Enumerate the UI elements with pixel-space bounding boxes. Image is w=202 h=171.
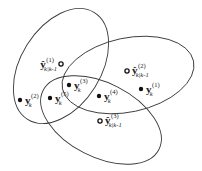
pred-3-marker-icon: [98, 119, 102, 123]
label-subscript: k: [150, 90, 153, 97]
measurement-points: y(1)ky(2)ky(3)ky(4)ky(5)k: [18, 77, 160, 108]
label-subscript: k: [108, 97, 111, 104]
label-subscript: k: [78, 86, 81, 93]
gate-ellipses: [0, 0, 201, 171]
meas-3-label: y(3)k: [74, 77, 88, 93]
meas-3-marker-icon: [67, 83, 71, 87]
meas-4-label: y(4)k: [104, 88, 118, 104]
label-superscript: (3): [111, 112, 119, 120]
meas-4-marker-icon: [97, 94, 101, 98]
label-subscript: k|k-1: [136, 71, 149, 78]
label-superscript: (1): [46, 56, 54, 64]
meas-1-label: y(1)k: [146, 81, 160, 97]
meas-2-label: y(2)k: [25, 92, 39, 108]
meas-5-marker-icon: [48, 96, 52, 100]
label-superscript: (2): [138, 62, 146, 70]
label-subscript: k|k-1: [44, 65, 57, 72]
label-subscript: k|k-1: [109, 121, 122, 128]
pred-2-label: ŷ(2)k|k-1: [132, 62, 149, 78]
pred-2-marker-icon: [125, 69, 129, 73]
label-superscript: (1): [152, 81, 160, 89]
pred-3-label: ŷ(3)k|k-1: [105, 112, 122, 128]
label-superscript: (4): [110, 88, 118, 96]
label-subscript: k: [29, 101, 32, 108]
meas-1-marker-icon: [139, 87, 143, 91]
label-superscript: (3): [80, 77, 88, 85]
pred-1-marker-icon: [59, 62, 63, 66]
gate-2-ellipse: [55, 25, 201, 125]
gate-3-ellipse: [26, 58, 175, 171]
label-superscript: (2): [31, 92, 39, 100]
label-subscript: k: [59, 99, 62, 106]
label-superscript: (5): [61, 90, 69, 98]
meas-2-marker-icon: [18, 98, 22, 102]
gating-diagram: ŷ(1)k|k-1ŷ(2)k|k-1ŷ(3)k|k-1 y(1)ky(2)ky(…: [0, 0, 202, 171]
pred-1-label: ŷ(1)k|k-1: [40, 56, 57, 72]
